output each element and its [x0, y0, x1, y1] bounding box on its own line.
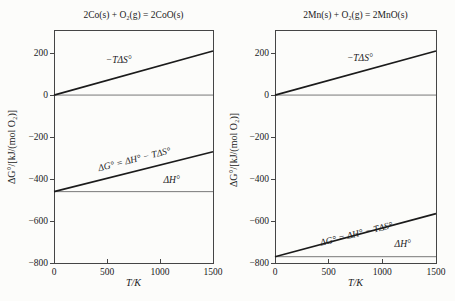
line-label-1: ΔG° = ΔH° − TΔS° — [318, 220, 394, 248]
y-tick-label-1: −400 — [249, 174, 269, 184]
x-axis-label-left: T/K — [54, 277, 213, 288]
line-label-1: −TΔS° — [347, 53, 373, 63]
line-label-1: ΔH° — [394, 239, 411, 249]
line-label-0: ΔH° — [163, 175, 180, 185]
y-tick-label-1: 200 — [255, 48, 270, 58]
panel-title-cobalt-oxide: 2Co(s) + O₂(g) = 2CoO(s) — [54, 10, 213, 20]
x-tick-label-1: 0 — [273, 267, 278, 277]
plot-frame-0 — [54, 30, 213, 263]
x-tick-label-1: 1000 — [373, 267, 392, 277]
line-label-0: −TΔS° — [106, 55, 132, 65]
y-tick-label-0: −400 — [28, 174, 48, 184]
y-tick-label-0: −200 — [28, 132, 48, 142]
y-tick-label-1: −800 — [249, 258, 269, 268]
y-tick-label-0: 200 — [34, 48, 49, 58]
y-tick-label-1: 0 — [264, 90, 269, 100]
x-tick-label-1: 500 — [322, 267, 337, 277]
y-tick-label-0: 0 — [43, 90, 48, 100]
panel-title-manganese-oxide: 2Mn(s) + O₂(g) = 2MnO(s) — [275, 10, 436, 20]
line-label-0: ΔG° = ΔH° − TΔS° — [96, 145, 172, 173]
x-tick-label-0: 0 — [52, 267, 57, 277]
y-tick-label-1: −200 — [249, 132, 269, 142]
series-line-0 — [54, 51, 213, 95]
x-tick-label-0: 1000 — [151, 267, 170, 277]
x-tick-label-0: 500 — [100, 267, 115, 277]
x-axis-label-right: T/K — [275, 277, 436, 288]
y-axis-label-right: ΔG°/[kJ/(mol O₂)] — [228, 113, 239, 187]
x-tick-label-0: 1500 — [204, 267, 223, 277]
y-tick-label-0: −800 — [28, 258, 48, 268]
ellingham-diagram-figure: 2000−200−400−600−800050010001500−TΔS°ΔG°… — [0, 0, 455, 301]
y-tick-label-0: −600 — [28, 216, 48, 226]
y-tick-label-1: −600 — [249, 216, 269, 226]
y-axis-label-left: ΔG°/[kJ/(mol O₂)] — [6, 110, 17, 184]
x-tick-label-1: 1500 — [427, 267, 446, 277]
